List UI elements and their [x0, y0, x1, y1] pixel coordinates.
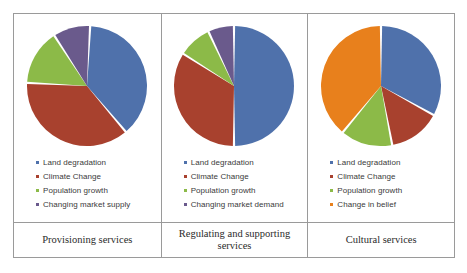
legend-item: Climate Change	[36, 169, 161, 183]
pie-svg-cultural	[319, 21, 443, 151]
legend-label: Climate Change	[191, 172, 249, 181]
legend-bullet-icon	[184, 203, 187, 206]
legend-label: Changing market demand	[191, 200, 284, 209]
legend-label: Climate Change	[43, 172, 101, 181]
legend-provisioning: Land degradation Climate Change Populati…	[14, 153, 161, 211]
legend-label: Population growth	[43, 186, 108, 195]
legend-regulating: Land degradation Climate Change Populati…	[162, 153, 308, 211]
panel-provisioning: Land degradation Climate Change Populati…	[14, 14, 161, 222]
panel-cultural: Land degradation Climate Change Populati…	[307, 14, 454, 222]
legend-label: Changing market supply	[43, 200, 130, 209]
pie-slice	[234, 26, 294, 146]
legend-bullet-icon	[330, 189, 333, 192]
legend-item: Climate Change	[330, 169, 454, 183]
pie-svg-provisioning	[25, 21, 149, 151]
legend-item: Population growth	[330, 183, 454, 197]
legend-item: Population growth	[184, 183, 308, 197]
legend-item: Land degradation	[36, 155, 161, 169]
legend-item: Changing market supply	[36, 197, 161, 211]
legend-bullet-icon	[36, 175, 39, 178]
legend-label: Change in belief	[337, 200, 396, 209]
legend-label: Climate Change	[337, 172, 395, 181]
legend-item: Change in belief	[330, 197, 454, 211]
legend-label: Land degradation	[43, 158, 106, 167]
figure-root: Land degradation Climate Change Populati…	[0, 0, 467, 273]
caption-row: Provisioning services Regulating and sup…	[14, 222, 454, 257]
legend-label: Population growth	[337, 186, 402, 195]
panel-regulating: Land degradation Climate Change Populati…	[161, 14, 308, 222]
pie-chart-cultural	[308, 14, 454, 153]
legend-label: Land degradation	[337, 158, 400, 167]
legend-item: Population growth	[36, 183, 161, 197]
legend-bullet-icon	[330, 161, 333, 164]
legend-item: Changing market demand	[184, 197, 308, 211]
legend-bullet-icon	[330, 175, 333, 178]
pie-chart-regulating	[162, 14, 308, 153]
panels-row: Land degradation Climate Change Populati…	[14, 14, 454, 222]
legend-bullet-icon	[184, 161, 187, 164]
caption-regulating: Regulating and supporting services	[161, 223, 308, 257]
legend-item: Land degradation	[184, 155, 308, 169]
legend-label: Land degradation	[191, 158, 254, 167]
legend-bullet-icon	[330, 203, 333, 206]
pie-chart-provisioning	[14, 14, 161, 153]
legend-item: Climate Change	[184, 169, 308, 183]
caption-provisioning: Provisioning services	[14, 223, 161, 257]
legend-cultural: Land degradation Climate Change Populati…	[308, 153, 454, 211]
legend-bullet-icon	[36, 189, 39, 192]
legend-bullet-icon	[36, 203, 39, 206]
pie-svg-regulating	[172, 21, 296, 151]
caption-cultural: Cultural services	[307, 223, 454, 257]
legend-bullet-icon	[184, 175, 187, 178]
figure-table: Land degradation Climate Change Populati…	[13, 13, 455, 258]
legend-item: Land degradation	[330, 155, 454, 169]
legend-bullet-icon	[36, 161, 39, 164]
legend-label: Population growth	[191, 186, 256, 195]
legend-bullet-icon	[184, 189, 187, 192]
